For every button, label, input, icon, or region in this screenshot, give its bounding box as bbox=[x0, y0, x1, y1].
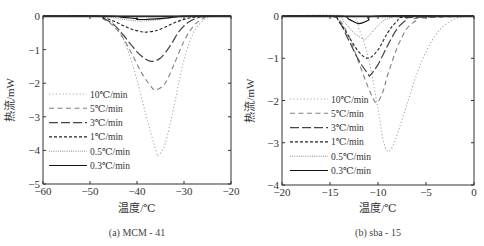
x-tick-label: −40 bbox=[128, 185, 146, 197]
legend-label: 0.5℃/min bbox=[331, 152, 371, 162]
plot-frame bbox=[43, 16, 231, 184]
y-tick-label: 0 bbox=[35, 10, 41, 22]
legend-label: 0.5℃/min bbox=[90, 147, 130, 157]
x-tick-label: −10 bbox=[369, 186, 387, 198]
figure-caption: (a) MCM - 41 bbox=[109, 227, 165, 239]
x-tick-label: −15 bbox=[321, 186, 339, 198]
legend-label: 1℃/min bbox=[90, 132, 123, 142]
y-tick-label: −1 bbox=[267, 52, 279, 64]
legend-label: 3℃/min bbox=[331, 123, 364, 133]
series-line bbox=[282, 16, 474, 41]
legend: 10℃/min5℃/min3℃/min1℃/min0.5℃/min0.3℃/mi… bbox=[49, 90, 130, 172]
legend-label: 0.3℃/min bbox=[90, 161, 130, 171]
y-tick-label: −5 bbox=[28, 178, 40, 190]
chart-mcm41: −60−50−40−30−200−1−2−3−4−5温度/℃热流/mW10℃/m… bbox=[3, 10, 240, 239]
series-line bbox=[282, 15, 474, 152]
curves bbox=[43, 16, 231, 156]
legend-label: 5℃/min bbox=[90, 104, 123, 114]
y-axis-label: 热流/mW bbox=[243, 78, 256, 123]
x-tick-label: −30 bbox=[175, 185, 193, 197]
y-tick-label: −3 bbox=[28, 111, 40, 123]
x-tick-label: −50 bbox=[81, 185, 99, 197]
y-tick-label: −1 bbox=[28, 44, 40, 56]
x-axis-label: 温度/℃ bbox=[359, 201, 396, 214]
x-tick-label: 0 bbox=[471, 186, 477, 198]
series-line bbox=[282, 16, 474, 103]
x-tick-label: −5 bbox=[420, 186, 432, 198]
chart-sba15: −20−15−10−500−1−2−3−4温度/℃热流/mW10℃/min5℃/… bbox=[243, 10, 477, 239]
x-tick-label: −20 bbox=[222, 185, 240, 197]
legend-label: 1℃/min bbox=[331, 137, 364, 147]
y-axis-label: 热流/mW bbox=[3, 77, 16, 122]
y-tick-label: −2 bbox=[267, 95, 279, 107]
y-tick-label: 0 bbox=[274, 10, 280, 22]
legend-label: 10℃/min bbox=[331, 95, 369, 105]
figure-caption: (b) sba - 15 bbox=[355, 227, 401, 239]
legend-label: 3℃/min bbox=[90, 118, 123, 128]
series-line bbox=[43, 16, 231, 62]
plot-frame bbox=[282, 16, 474, 185]
y-tick-label: −2 bbox=[28, 77, 40, 89]
series-line bbox=[43, 16, 231, 156]
y-tick-label: −4 bbox=[28, 144, 40, 156]
legend-label: 10℃/min bbox=[90, 90, 128, 100]
curves bbox=[282, 15, 474, 152]
series-line bbox=[282, 16, 474, 59]
legend: 10℃/min5℃/min3℃/min1℃/min0.5℃/min0.3℃/mi… bbox=[290, 95, 371, 177]
figure: −60−50−40−30−200−1−2−3−4−5温度/℃热流/mW10℃/m… bbox=[0, 0, 484, 246]
y-tick-label: −3 bbox=[267, 137, 279, 149]
series-line bbox=[43, 16, 231, 90]
y-tick-label: −4 bbox=[267, 179, 279, 191]
legend-label: 5℃/min bbox=[331, 109, 364, 119]
legend-label: 0.3℃/min bbox=[331, 166, 371, 176]
x-axis-label: 温度/℃ bbox=[118, 201, 155, 214]
